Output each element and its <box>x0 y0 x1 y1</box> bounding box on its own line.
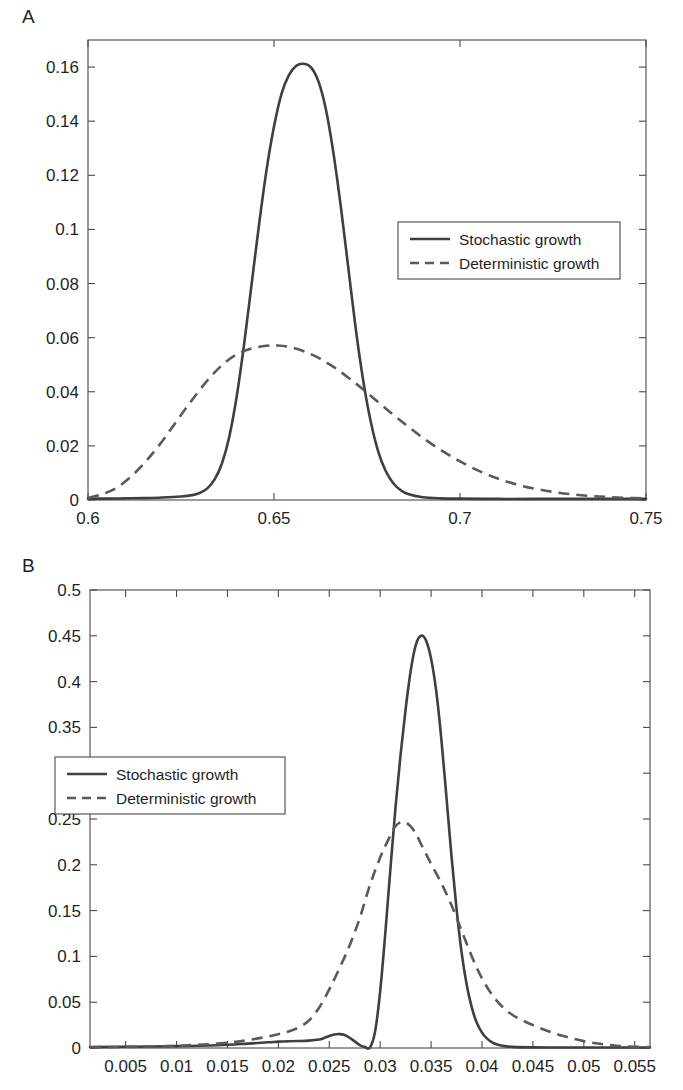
y-tick-label: 0.08 <box>46 275 79 294</box>
x-tick-label: 0.6 <box>76 509 100 528</box>
x-tick-label: 0.035 <box>410 1057 453 1076</box>
x-tick-label: 0.65 <box>257 509 290 528</box>
legend-label: Deterministic growth <box>459 255 599 272</box>
panel-b: B 00.050.10.150.20.250.30.350.40.450.50.… <box>0 545 683 1090</box>
panel-a: A 00.020.040.060.080.10.120.140.160.60.6… <box>0 0 683 545</box>
x-tick-label: 0.05 <box>567 1057 600 1076</box>
y-tick-label: 0.4 <box>57 673 81 692</box>
chart-legend: Stochastic growthDeterministic growth <box>398 222 620 279</box>
x-tick-label: 0.75 <box>629 509 662 528</box>
legend-label: Stochastic growth <box>116 766 238 783</box>
legend-label: Stochastic growth <box>459 231 581 248</box>
figure-root: A 00.020.040.060.080.10.120.140.160.60.6… <box>0 0 683 1090</box>
x-tick-label: 0.04 <box>465 1057 498 1076</box>
legend-label: Deterministic growth <box>116 790 256 807</box>
x-tick-label: 0.03 <box>364 1057 397 1076</box>
panel-b-plot: 00.050.10.150.20.250.30.350.40.450.50.00… <box>0 545 683 1090</box>
x-tick-label: 0.025 <box>308 1057 351 1076</box>
y-tick-label: 0.05 <box>48 993 81 1012</box>
y-tick-label: 0.12 <box>46 166 79 185</box>
y-tick-label: 0.45 <box>48 627 81 646</box>
x-tick-label: 0.02 <box>262 1057 295 1076</box>
y-tick-label: 0.2 <box>57 856 81 875</box>
series-line-stochastic <box>90 636 650 1049</box>
y-tick-label: 0.5 <box>57 581 81 600</box>
x-tick-label: 0.055 <box>613 1057 656 1076</box>
y-tick-label: 0 <box>72 1039 81 1058</box>
y-tick-label: 0.06 <box>46 329 79 348</box>
y-tick-label: 0.1 <box>55 220 79 239</box>
panel-a-plot: 00.020.040.060.080.10.120.140.160.60.650… <box>0 0 683 545</box>
x-tick-label: 0.045 <box>512 1057 555 1076</box>
y-tick-label: 0.04 <box>46 383 79 402</box>
y-tick-label: 0.35 <box>48 718 81 737</box>
series-line-deterministic <box>90 822 650 1047</box>
chart-legend: Stochastic growthDeterministic growth <box>55 757 285 814</box>
series-line-stochastic <box>88 64 646 499</box>
y-tick-label: 0.14 <box>46 112 79 131</box>
x-tick-label: 0.015 <box>206 1057 249 1076</box>
y-tick-label: 0.16 <box>46 58 79 77</box>
x-tick-label: 0.01 <box>160 1057 193 1076</box>
x-tick-label: 0.005 <box>104 1057 147 1076</box>
series-line-deterministic <box>88 345 646 498</box>
y-tick-label: 0.02 <box>46 437 79 456</box>
y-tick-label: 0.15 <box>48 902 81 921</box>
x-tick-label: 0.7 <box>448 509 472 528</box>
y-tick-label: 0.1 <box>57 947 81 966</box>
y-tick-label: 0 <box>70 491 79 510</box>
